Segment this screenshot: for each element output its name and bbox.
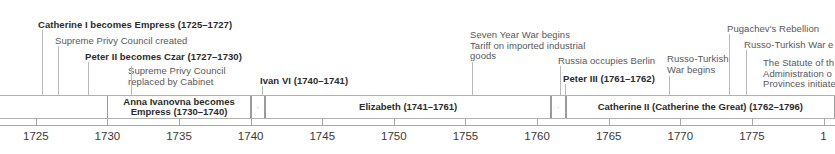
era-segment[interactable]: Anna Ivanovna becomes Empress (1730–1740…	[107, 96, 250, 118]
axis-tick	[752, 119, 753, 125]
axis-tick-label: 1770	[668, 130, 694, 142]
axis-tick-label: 1	[820, 130, 826, 142]
event-leader-line	[88, 62, 89, 95]
axis-tick-label: 1750	[381, 130, 407, 142]
event-leader-line	[669, 76, 670, 95]
event-leader-line	[560, 66, 561, 95]
event-label[interactable]: Ivan VI (1740–1741)	[260, 76, 348, 87]
event-label[interactable]: Russo-Turkish War e	[744, 40, 833, 51]
axis-tick-label: 1740	[238, 130, 264, 142]
event-leader-line	[729, 34, 730, 95]
timeline-diagram: Catherine I becomes Empress (1725–1727)S…	[0, 0, 835, 154]
event-leader-line	[262, 86, 263, 95]
axis-tick	[537, 119, 538, 125]
event-label[interactable]: Supreme Privy Council created	[55, 36, 187, 47]
era-segment-label: Anna Ivanovna becomes Empress (1730–1740…	[118, 97, 239, 117]
axis-tick-label: 1755	[453, 130, 479, 142]
event-leader-line	[746, 50, 747, 95]
axis-tick-label: 1725	[23, 130, 49, 142]
era-segment-label: Elizabeth (1741–1761)	[354, 102, 462, 112]
axis-tick-label: 1760	[524, 130, 550, 142]
axis-tick-label: 1735	[166, 130, 192, 142]
event-label[interactable]: Peter III (1761–1762)	[563, 74, 655, 85]
axis-tick-label: 1730	[95, 130, 121, 142]
axis-tick-label: 1765	[596, 130, 622, 142]
era-segment[interactable]: ·	[551, 96, 565, 118]
era-segment-label: Catherine II (Catherine the Great) (1762…	[593, 102, 808, 112]
event-label[interactable]: Russo-Turkish War begins	[667, 54, 729, 75]
axis-line	[0, 125, 835, 126]
axis-tick	[680, 119, 681, 125]
event-label[interactable]: Russia occupies Berlin	[558, 56, 655, 67]
event-leader-line	[58, 46, 59, 95]
event-label[interactable]: The Statute of th Administration o Provi…	[763, 58, 835, 90]
event-label[interactable]: Supreme Privy Council replaced by Cabine…	[128, 66, 226, 87]
event-label[interactable]: Peter II becomes Czar (1727–1730)	[85, 52, 242, 63]
axis-tick	[824, 119, 825, 125]
axis-tick	[179, 119, 180, 125]
axis-tick	[465, 119, 466, 125]
era-segment-label: ·	[257, 102, 259, 112]
axis-tick-label: 1775	[739, 130, 765, 142]
era-segment[interactable]: Catherine II (Catherine the Great) (1762…	[566, 96, 835, 118]
event-leader-line	[565, 84, 566, 95]
axis-tick	[107, 119, 108, 125]
axis-tick-label: 1745	[309, 130, 335, 142]
axis-tick	[609, 119, 610, 125]
era-segment[interactable]: Elizabeth (1741–1761)	[265, 96, 551, 118]
event-label[interactable]: Pugachev's Rebellion	[727, 24, 819, 35]
axis-tick	[36, 119, 37, 125]
era-segment-label: ·	[558, 102, 560, 112]
era-bar: Anna Ivanovna becomes Empress (1730–1740…	[0, 95, 835, 119]
event-leader-line	[472, 62, 473, 95]
event-leader-line	[131, 66, 132, 95]
axis-tick	[394, 119, 395, 125]
era-segment[interactable]: ·	[251, 96, 265, 118]
axis-tick	[322, 119, 323, 125]
event-leader-line	[42, 30, 43, 95]
axis-tick	[251, 119, 252, 125]
event-label[interactable]: Catherine I becomes Empress (1725–1727)	[38, 20, 232, 31]
